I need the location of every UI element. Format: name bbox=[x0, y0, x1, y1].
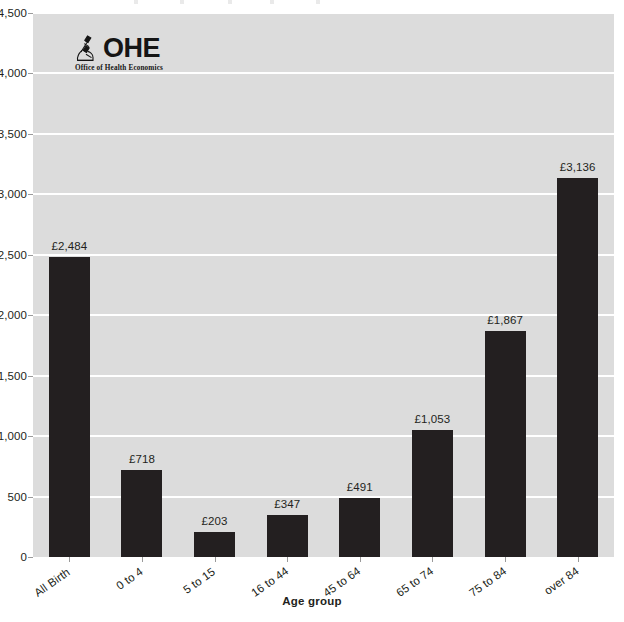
bar-value-label: £347 bbox=[274, 498, 300, 510]
bar bbox=[485, 331, 526, 557]
x-axis: All Birth0 to 45 to 1516 to 4445 to 6465… bbox=[33, 557, 614, 622]
y-tick-label: 500 bbox=[8, 491, 28, 503]
bar-value-label: £1,053 bbox=[415, 413, 451, 425]
x-tick-label: 45 to 64 bbox=[321, 565, 363, 599]
x-axis-title: Age group bbox=[0, 595, 624, 607]
bar-value-label: £491 bbox=[347, 481, 373, 493]
y-tick-label: 1,500 bbox=[0, 370, 27, 382]
y-tick-label: 4,000 bbox=[0, 67, 27, 79]
x-tick-label: 0 to 4 bbox=[114, 565, 145, 592]
x-tick-label: 5 to 15 bbox=[181, 565, 217, 595]
x-tick-mark bbox=[287, 557, 288, 562]
x-tick-mark bbox=[432, 557, 433, 562]
x-tick-mark bbox=[578, 557, 579, 562]
y-tick-label: 1,000 bbox=[0, 430, 27, 442]
gridline bbox=[33, 375, 614, 377]
bar-value-label: £203 bbox=[202, 515, 228, 527]
y-tick-label: 2,000 bbox=[0, 309, 27, 321]
gridline bbox=[33, 496, 614, 498]
bar bbox=[121, 470, 162, 557]
x-tick-mark bbox=[215, 557, 216, 562]
bar-value-label: £3,136 bbox=[560, 161, 596, 173]
x-tick-mark bbox=[142, 557, 143, 562]
gridline bbox=[33, 435, 614, 437]
y-tick-label: 4,500 bbox=[0, 7, 27, 19]
gridline bbox=[33, 133, 614, 135]
gridline bbox=[33, 12, 614, 14]
microscope-icon bbox=[73, 33, 105, 65]
x-tick-mark bbox=[360, 557, 361, 562]
gridline bbox=[33, 314, 614, 316]
y-tick-label: 3,500 bbox=[0, 128, 27, 140]
cropped-header-strip bbox=[120, 0, 600, 4]
gridline bbox=[33, 72, 614, 74]
bar bbox=[267, 515, 308, 557]
y-tick-label: 0 bbox=[21, 551, 28, 563]
x-tick-mark bbox=[69, 557, 70, 562]
gridline bbox=[33, 254, 614, 256]
x-tick-label: over 84 bbox=[542, 565, 581, 597]
y-tick-label: 2,500 bbox=[0, 249, 27, 261]
y-axis: 05001,0001,5002,0002,5003,0003,5004,0004… bbox=[0, 0, 33, 570]
plot-area: OHE Office of Health Economics £2,484£71… bbox=[33, 13, 614, 557]
x-tick-label: 65 to 74 bbox=[394, 565, 436, 599]
bar-value-label: £718 bbox=[129, 453, 155, 465]
x-tick-label: All Birth bbox=[32, 565, 72, 598]
bar bbox=[557, 178, 598, 557]
bar bbox=[339, 498, 380, 557]
bar bbox=[412, 430, 453, 557]
y-tick-label: 3,000 bbox=[0, 188, 27, 200]
x-tick-label: 16 to 44 bbox=[249, 565, 291, 599]
ohe-logo: OHE Office of Health Economics bbox=[73, 33, 183, 78]
gridline bbox=[33, 193, 614, 195]
x-tick-mark bbox=[505, 557, 506, 562]
logo-tagline: Office of Health Economics bbox=[75, 64, 163, 72]
logo-wordmark: OHE bbox=[103, 35, 160, 62]
x-tick-label: 75 to 84 bbox=[467, 565, 509, 599]
bar bbox=[49, 257, 90, 557]
bar-value-label: £1,867 bbox=[487, 314, 523, 326]
bar-chart: 05001,0001,5002,0002,5003,0003,5004,0004… bbox=[0, 0, 624, 622]
bar bbox=[194, 532, 235, 557]
bar-value-label: £2,484 bbox=[51, 240, 87, 252]
